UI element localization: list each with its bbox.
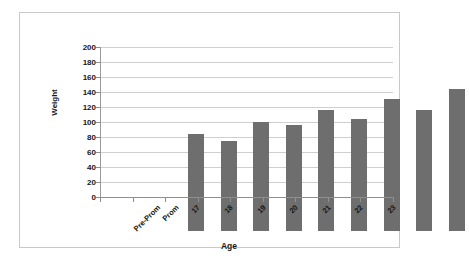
y-axis-tick-mark (96, 152, 100, 153)
y-axis-line (100, 47, 101, 198)
y-axis-tick-label: 40 (70, 163, 96, 172)
x-axis-tick-mark (328, 198, 329, 202)
y-axis-tick-mark (96, 47, 100, 48)
bar[interactable] (416, 110, 432, 231)
x-axis-tick-label: 19 (255, 203, 267, 215)
x-axis-tick-labels: Pre-PromProm17181920212223 (100, 203, 393, 239)
bar-slot (408, 81, 441, 231)
y-axis-tick-label: 0 (70, 193, 96, 202)
y-axis-tick-mark (96, 182, 100, 183)
y-axis-tick-label: 120 (70, 103, 96, 112)
x-axis-tick-label: Prom (160, 203, 180, 223)
x-axis-tick-mark (198, 198, 199, 202)
x-axis-tick-label: 21 (320, 203, 332, 215)
x-axis-tick-mark (263, 198, 264, 202)
gridline (100, 47, 393, 48)
gridline (100, 62, 393, 63)
x-axis-tick-label: Pre-Prom (132, 203, 162, 233)
x-axis-tick-mark (100, 198, 101, 202)
x-axis-tick-label: 20 (287, 203, 299, 215)
y-axis-tick-label: 100 (70, 118, 96, 127)
x-axis-tick-mark (360, 198, 361, 202)
y-axis-tick-mark (96, 62, 100, 63)
x-axis-tick-label: 18 (222, 203, 234, 215)
chart-frame: 020406080100120140160180200 Pre-PromProm… (19, 12, 400, 248)
bar[interactable] (449, 89, 465, 232)
y-axis-tick-labels: 020406080100120140160180200 (70, 47, 96, 197)
y-axis-tick-mark (96, 107, 100, 108)
y-axis-tick-mark (96, 137, 100, 138)
y-axis-tick-label: 80 (70, 133, 96, 142)
y-axis-tick-mark (96, 122, 100, 123)
x-axis-tick-mark (133, 198, 134, 202)
x-axis-tick-label: 22 (353, 203, 365, 215)
plot-area (100, 47, 393, 197)
y-axis-tick-label: 180 (70, 58, 96, 67)
x-axis-tick-mark (295, 198, 296, 202)
y-axis-tick-mark (96, 197, 100, 198)
x-axis-tick-mark (393, 198, 394, 202)
y-axis-tick-label: 60 (70, 148, 96, 157)
x-axis-tick-mark (165, 198, 166, 202)
y-axis-tick-mark (96, 92, 100, 93)
x-axis-tick-label: 17 (190, 203, 202, 215)
bar-slot (440, 81, 469, 231)
y-axis-title: Weight (50, 73, 59, 133)
y-axis-tick-mark (96, 77, 100, 78)
y-axis-tick-label: 200 (70, 43, 96, 52)
y-axis-tick-label: 140 (70, 88, 96, 97)
x-axis-title: Age (20, 241, 438, 251)
y-axis-tick-label: 20 (70, 178, 96, 187)
y-axis-tick-mark (96, 167, 100, 168)
x-axis-tick-mark (230, 198, 231, 202)
y-axis-tick-label: 160 (70, 73, 96, 82)
gridline (100, 77, 393, 78)
